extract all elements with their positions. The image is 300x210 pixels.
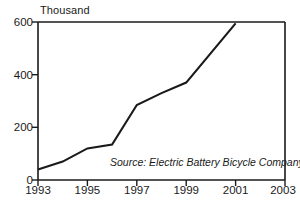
y-tick-label-400: 400 xyxy=(0,69,33,81)
line-chart-canvas xyxy=(0,0,300,210)
y-axis-ticks xyxy=(32,22,38,180)
y-axis-unit-label: Thousand xyxy=(40,4,90,16)
y-tick-label-200: 200 xyxy=(0,121,33,133)
x-tick-label-1993: 1993 xyxy=(25,184,51,196)
x-tick-label-2003: 2003 xyxy=(270,184,296,196)
chart-figure: Thousand 0 200 400 600 1993 1995 1997 19… xyxy=(0,0,300,210)
x-tick-label-1995: 1995 xyxy=(75,184,101,196)
x-tick-label-1999: 1999 xyxy=(173,184,199,196)
x-tick-label-1997: 1997 xyxy=(124,184,150,196)
x-tick-label-2001: 2001 xyxy=(223,184,249,196)
y-tick-label-600: 600 xyxy=(0,16,33,28)
source-annotation: Source: Electric Battery Bicycle Company xyxy=(110,156,300,168)
data-series-line xyxy=(38,23,236,169)
